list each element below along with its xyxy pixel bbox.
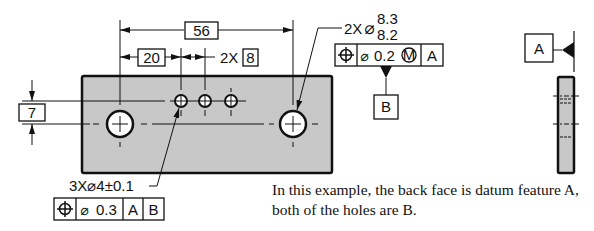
fcf-small-holes: ⌀ 0.3 A B bbox=[54, 198, 164, 220]
dimension-7: 7 bbox=[19, 80, 45, 145]
dimension-count: 2X bbox=[220, 49, 238, 66]
fcf-datum-a: A bbox=[128, 201, 138, 218]
fcf-tolerance: 0.2 bbox=[374, 47, 395, 64]
datum-triangle-icon bbox=[562, 42, 574, 58]
large-hole-count: 2X bbox=[344, 20, 362, 37]
datum-triangle-icon bbox=[380, 66, 392, 78]
fcf-datum-a: A bbox=[427, 47, 437, 64]
dimension-7-value: 7 bbox=[28, 104, 36, 121]
large-hole-left bbox=[107, 111, 133, 137]
dimension-20: 20 bbox=[120, 49, 215, 66]
small-holes-spec: 3X⌀4±0.1 bbox=[69, 177, 134, 194]
datum-a-label: A bbox=[534, 40, 544, 57]
lower-limit: 8.2 bbox=[377, 26, 398, 43]
caption-line-1: In this example, the back face is datum … bbox=[272, 180, 592, 200]
fcf-modifier: M bbox=[403, 46, 416, 63]
small-holes bbox=[175, 95, 237, 107]
diameter-symbol-icon: ⌀ bbox=[364, 18, 375, 38]
dimension-20-value: 20 bbox=[143, 49, 160, 66]
large-hole-right bbox=[280, 111, 306, 137]
side-view bbox=[553, 77, 579, 173]
fcf-large-holes: ⌀ 0.2 M A bbox=[335, 44, 443, 66]
dimension-2x-8: 2X 8 bbox=[220, 49, 258, 66]
dimension-8-value: 8 bbox=[246, 49, 254, 66]
fcf-datum-b: B bbox=[148, 201, 158, 218]
upper-limit: 8.3 bbox=[377, 10, 398, 27]
caption-line-2: both of the holes are B. bbox=[272, 200, 592, 220]
diameter-symbol-icon: ⌀ bbox=[360, 48, 369, 64]
datum-a-feature: A bbox=[525, 31, 574, 72]
fcf-tolerance: 0.3 bbox=[96, 201, 117, 218]
dimension-56-value: 56 bbox=[193, 22, 210, 39]
datum-b-label: B bbox=[381, 98, 391, 115]
diameter-symbol-icon: ⌀ bbox=[80, 202, 89, 218]
dimension-56: 56 bbox=[120, 22, 293, 39]
caption: In this example, the back face is datum … bbox=[272, 180, 592, 220]
datum-b-feature: B bbox=[374, 66, 398, 119]
